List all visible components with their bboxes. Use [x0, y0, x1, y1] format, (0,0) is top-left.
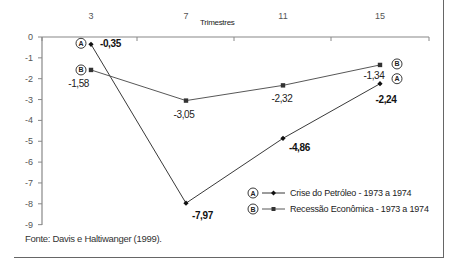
frame-border-bottom — [14, 257, 444, 258]
source-note: Fonte: Davis e Haltiwanger (1999). — [25, 233, 162, 244]
square-marker-icon — [272, 207, 276, 211]
series-badge: B — [78, 66, 83, 73]
data-point — [183, 201, 188, 206]
data-label: -4,86 — [289, 142, 311, 153]
y-tick-label: -7 — [25, 178, 33, 188]
y-tick-label: -3 — [25, 95, 33, 105]
x-axis: 371115 Trimestres — [42, 11, 429, 41]
y-tick-label: -8 — [25, 199, 33, 209]
diamond-marker-icon — [271, 191, 276, 196]
y-tick-label: -9 — [25, 220, 33, 230]
data-point — [184, 98, 188, 102]
data-label: -3,05 — [174, 109, 196, 120]
legend-item-b: B Recessão Econômica - 1973 a 1974 — [248, 204, 429, 214]
data-point — [281, 83, 285, 87]
data-point — [377, 81, 382, 86]
data-label: -1,58 — [68, 78, 90, 89]
frame-border-right — [443, 0, 444, 258]
x-tick-label: 3 — [88, 11, 93, 21]
data-label: -0,35 — [100, 38, 122, 49]
line-chart: 0-1-2-3-4-5-6-7-8-9 371115 Trimestres -0… — [0, 0, 458, 269]
y-tick-label: -5 — [25, 136, 33, 146]
y-tick-label: -2 — [25, 74, 33, 84]
data-point — [89, 68, 93, 72]
data-label: -7,97 — [192, 210, 214, 221]
x-tick-label: 11 — [278, 11, 287, 21]
data-point — [88, 42, 93, 47]
y-tick-label: -1 — [25, 53, 33, 63]
data-label: -2,32 — [272, 93, 294, 104]
series-badge: A — [394, 75, 399, 82]
legend-item-a: A Crise do Petróleo - 1973 a 1974 — [248, 188, 412, 198]
data-point — [280, 136, 285, 141]
x-tick-label: 15 — [375, 11, 385, 21]
series-badge: A — [78, 40, 83, 47]
legend-label-a: Crise do Petróleo - 1973 a 1974 — [290, 188, 412, 198]
legend-label-b: Recessão Econômica - 1973 a 1974 — [290, 204, 429, 214]
x-axis-title: Trimestres — [200, 18, 235, 27]
data-point — [378, 63, 382, 67]
y-tick-label: -6 — [25, 157, 33, 167]
legend-badge-a: A — [250, 190, 255, 197]
legend: A Crise do Petróleo - 1973 a 1974 B Rece… — [248, 188, 429, 214]
data-label: -2,24 — [376, 94, 398, 105]
legend-badge-b: B — [250, 206, 255, 213]
series-badge: B — [394, 60, 399, 67]
y-axis: 0-1-2-3-4-5-6-7-8-9 — [25, 32, 42, 230]
x-tick-label: 7 — [183, 11, 188, 21]
y-tick-label: 0 — [28, 32, 33, 42]
data-label: -1,34 — [364, 70, 386, 81]
y-tick-label: -4 — [25, 115, 33, 125]
